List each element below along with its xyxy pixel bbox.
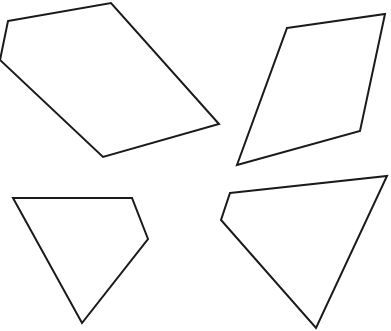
shapes-canvas — [0, 0, 391, 331]
quadrilateral-bottom-right — [221, 176, 387, 328]
quadrilateral-top-right — [237, 14, 385, 165]
pentagon-top-left — [0, 3, 219, 157]
quadrilateral-bottom-left — [13, 198, 148, 323]
